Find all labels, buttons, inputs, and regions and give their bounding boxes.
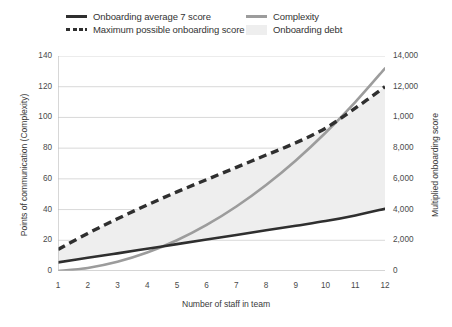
x-axis-tick-label: 11 <box>345 281 365 290</box>
y-axis-right-tick-label: 12,000 <box>393 82 433 91</box>
y-axis-right-tick-label: 1,000 <box>393 112 433 121</box>
x-axis-tick-label: 5 <box>167 281 187 290</box>
y-axis-left-tick-label: 100 <box>18 112 52 121</box>
y-axis-left-title: Points of communication (Complexity) <box>19 80 29 250</box>
x-axis-tick-label: 4 <box>137 281 157 290</box>
y-axis-right-tick-label: 6,000 <box>393 174 433 183</box>
y-axis-left-tick-label: 140 <box>18 51 52 60</box>
plot-area <box>58 56 385 271</box>
solid-dark-line-swatch-icon <box>66 15 87 18</box>
x-axis-tick-label: 6 <box>197 281 217 290</box>
legend-label-onboarding-average: Onboarding average 7 score <box>93 11 211 22</box>
chart-container: Onboarding average 7 score Complexity Ma… <box>0 0 452 327</box>
x-axis-tick-label: 8 <box>256 281 276 290</box>
y-axis-right-tick-label: 0 <box>393 266 433 275</box>
y-axis-left-tick-label: 40 <box>18 205 52 214</box>
chart-legend: Onboarding average 7 score Complexity Ma… <box>66 10 406 36</box>
y-axis-left-tick-label: 60 <box>18 174 52 183</box>
y-axis-left-tick-label: 20 <box>18 235 52 244</box>
legend-item-maximum-possible: Maximum possible onboarding score <box>66 24 242 35</box>
dashed-dark-line-swatch-icon <box>66 28 87 31</box>
y-axis-right-tick-label: 8,000 <box>393 143 433 152</box>
x-axis-title: Number of staff in team <box>0 299 452 309</box>
legend-label-maximum-possible: Maximum possible onboarding score <box>93 24 244 35</box>
legend-label-onboarding-debt: Onboarding debt <box>273 24 342 35</box>
x-axis-tick-label: 3 <box>107 281 127 290</box>
y-axis-left-tick-label: 0 <box>18 266 52 275</box>
plot-svg <box>58 56 385 271</box>
light-gray-area-swatch-icon <box>246 25 267 35</box>
y-axis-right-title: Multiplied onboarding score <box>430 80 440 250</box>
y-axis-right-tick-label: 4,000 <box>393 205 433 214</box>
y-axis-right-tick-label: 2,000 <box>393 235 433 244</box>
y-axis-right-tick-label: 14,000 <box>393 51 433 60</box>
x-axis-tick-label: 7 <box>226 281 246 290</box>
y-axis-left-tick-label: 80 <box>18 143 52 152</box>
x-axis-tick-label: 9 <box>286 281 306 290</box>
solid-gray-line-swatch-icon <box>246 15 267 18</box>
x-axis-tick-label: 1 <box>48 281 68 290</box>
x-axis-tick-label: 12 <box>375 281 395 290</box>
legend-item-onboarding-average: Onboarding average 7 score <box>66 11 242 22</box>
legend-item-complexity: Complexity <box>246 11 396 22</box>
x-axis-tick-label: 10 <box>316 281 336 290</box>
legend-label-complexity: Complexity <box>273 11 319 22</box>
legend-item-onboarding-debt: Onboarding debt <box>246 24 396 35</box>
y-axis-left-tick-label: 120 <box>18 82 52 91</box>
x-axis-tick-label: 2 <box>78 281 98 290</box>
